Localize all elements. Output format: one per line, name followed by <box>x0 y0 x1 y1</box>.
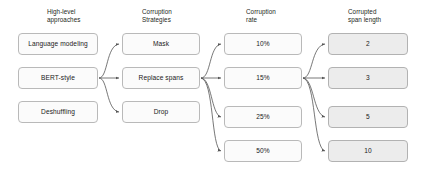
node-label: 15% <box>256 75 270 82</box>
edge-15-percent-to-5 <box>303 78 325 117</box>
node-drop[interactable]: Drop <box>122 101 200 123</box>
node-replace-spans[interactable]: Replace spans <box>122 67 200 89</box>
column-header-high-level-approaches: High-level approaches <box>47 8 80 24</box>
node-label: 10% <box>256 41 270 48</box>
node-label: BERT-style <box>41 75 75 82</box>
edge-group-strategy-to-rate <box>201 44 221 151</box>
edge-bert-style-to-mask <box>99 44 119 78</box>
node-corruption-rate-50[interactable]: 50% <box>224 140 302 162</box>
flow-diagram: High-level approaches Corruption Strateg… <box>0 0 430 176</box>
node-label: Language modeling <box>28 41 88 48</box>
node-bert-style[interactable]: BERT-style <box>18 67 98 89</box>
node-label: Deshuffling <box>41 109 75 116</box>
edge-replace-spans-to-10-percent <box>201 44 221 78</box>
edge-group-rate-to-span-length <box>303 44 325 151</box>
edge-bert-style-to-drop <box>99 78 119 112</box>
node-label: 10 <box>364 148 372 155</box>
edge-replace-spans-to-25-percent <box>201 78 221 117</box>
node-corruption-rate-25[interactable]: 25% <box>224 106 302 128</box>
node-language-modeling[interactable]: Language modeling <box>18 33 98 55</box>
node-span-length-5[interactable]: 5 <box>328 106 408 128</box>
column-header-corruption-rate: Corruption rate <box>246 8 276 24</box>
edge-15-percent-to-10 <box>303 78 325 151</box>
node-span-length-3[interactable]: 3 <box>328 67 408 89</box>
edge-group-approach-to-strategy <box>99 44 119 112</box>
node-span-length-2[interactable]: 2 <box>328 33 408 55</box>
node-corruption-rate-10[interactable]: 10% <box>224 33 302 55</box>
column-header-corrupted-span-length: Corrupted span length <box>348 8 381 24</box>
node-label: Mask <box>153 41 169 48</box>
node-label: 25% <box>256 114 270 121</box>
node-corruption-rate-15[interactable]: 15% <box>224 67 302 89</box>
node-label: 3 <box>366 75 370 82</box>
node-label: Drop <box>154 109 169 116</box>
node-deshuffling[interactable]: Deshuffling <box>18 101 98 123</box>
node-label: 5 <box>366 114 370 121</box>
node-label: 2 <box>366 41 370 48</box>
edge-replace-spans-to-50-percent <box>201 78 221 151</box>
node-label: Replace spans <box>139 75 184 82</box>
node-span-length-10[interactable]: 10 <box>328 140 408 162</box>
column-header-corruption-strategies: Corruption Strategies <box>142 8 172 24</box>
edge-15-percent-to-2 <box>303 44 325 78</box>
node-mask[interactable]: Mask <box>122 33 200 55</box>
node-label: 50% <box>256 148 270 155</box>
